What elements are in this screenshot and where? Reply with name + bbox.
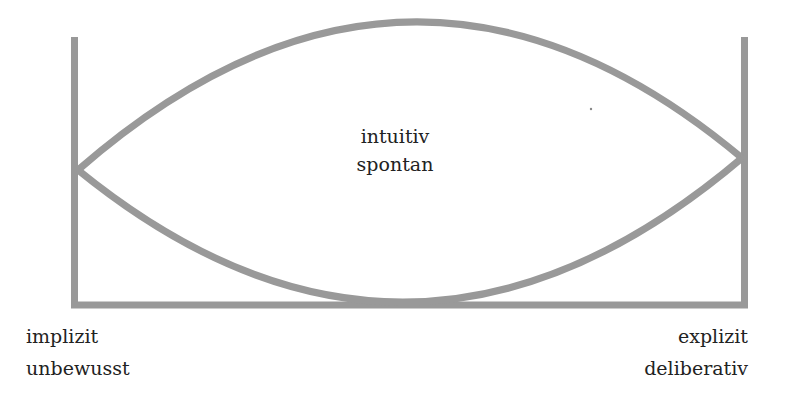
left-pole-label: implizit unbewusst	[26, 320, 130, 384]
right-pole-line2: deliberativ	[644, 352, 748, 384]
right-pole-line1: explizit	[644, 320, 748, 352]
lens-lower-arc	[78, 158, 742, 302]
left-pole-line2: unbewusst	[26, 352, 130, 384]
left-pole-line1: implizit	[26, 320, 130, 352]
center-label: intuitiv spontan	[300, 122, 490, 178]
scan-speck	[590, 108, 592, 110]
center-label-line1: intuitiv	[300, 122, 490, 150]
right-pole-label: explizit deliberativ	[644, 320, 748, 384]
center-label-line2: spontan	[300, 150, 490, 178]
